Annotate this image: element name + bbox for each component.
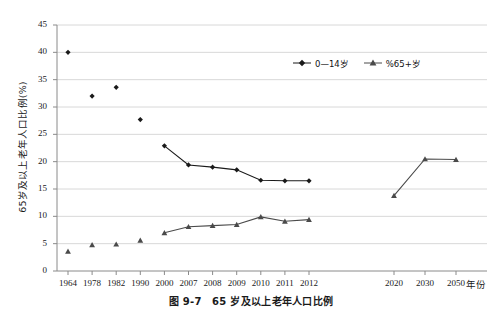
y-tick-label: 15 [25,183,47,193]
y-tick-label: 10 [25,210,47,220]
y-tick-label: 0 [25,265,47,275]
data-point-marker [90,93,95,98]
y-tick-marks-group [53,25,57,271]
data-point-marker [210,165,215,170]
y-tick-label: 35 [25,74,47,84]
x-tick-marks-group [68,271,456,275]
series-markers-group [65,50,459,254]
y-tick-label: 5 [25,238,47,248]
data-point-marker [137,238,143,243]
chart-legend: 0—14岁 %65+岁 [289,56,424,70]
y-tick-label: 45 [25,19,47,29]
legend-label-0-14: 0—14岁 [315,57,349,69]
legend-label-65-plus: %65+岁 [386,57,421,69]
data-point-marker [114,85,119,90]
x-tick-label: 2012 [289,278,329,288]
y-tick-label: 20 [25,156,47,166]
figure-container: 65岁及以上老年人口比例(%) 051015202530354045 19641… [0,0,502,316]
y-tick-label: 25 [25,128,47,138]
data-point-marker [306,178,311,183]
legend-diamond-icon [292,58,312,68]
series-line-65-plus [394,159,456,196]
legend-item-0-14: 0—14岁 [292,57,349,69]
y-tick-label: 40 [25,46,47,56]
data-point-marker [89,242,95,247]
y-tick-label: 30 [25,101,47,111]
series-line-0-14 [164,146,309,181]
data-point-marker [258,178,263,183]
x-axis-title: 年份 [466,277,486,291]
chart-canvas [0,0,502,316]
legend-item-65-plus: %65+岁 [363,57,421,69]
data-point-marker [138,117,143,122]
data-point-marker [282,178,287,183]
figure-caption: 图 9-7 65 岁及以上老年人口比例 [0,293,502,308]
data-point-marker [65,249,71,254]
data-point-marker [234,167,239,172]
data-point-marker [65,50,70,55]
legend-triangle-icon [363,58,383,68]
